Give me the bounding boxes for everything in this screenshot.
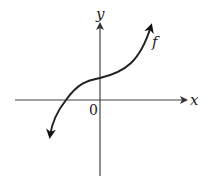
curve-f-lower — [50, 100, 66, 136]
x-axis-label: x — [190, 91, 199, 109]
origin-label: 0 — [89, 102, 98, 118]
curve-f — [66, 26, 151, 100]
function-graph: y x 0 f — [0, 0, 208, 184]
y-axis-label: y — [95, 5, 105, 23]
curve-label-f: f — [151, 33, 160, 51]
